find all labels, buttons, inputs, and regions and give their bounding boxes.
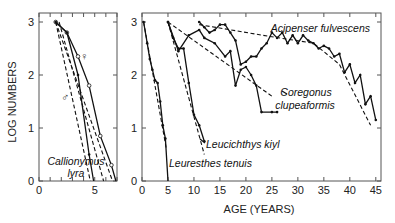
data-point <box>87 84 91 88</box>
y-tick-label: 1 <box>131 122 137 134</box>
y-tick-label: 2 <box>28 69 34 81</box>
data-point <box>276 111 279 114</box>
data-point <box>250 74 253 77</box>
data-point <box>354 82 357 85</box>
data-point <box>219 23 222 26</box>
plot-frame <box>142 13 381 181</box>
left-panel: 050123Callionymuslyra♀♂ <box>28 13 117 196</box>
data-point <box>66 31 69 34</box>
data-point <box>260 111 263 114</box>
series-line <box>168 22 277 112</box>
data-point <box>234 39 237 42</box>
annotation-callionymus: Callionymus <box>47 155 105 167</box>
y-tick-label: 0 <box>131 175 137 187</box>
data-point <box>110 163 114 167</box>
x-tick-label: 20 <box>240 184 252 196</box>
data-point <box>239 63 242 66</box>
x-tick-label: 0 <box>139 184 145 196</box>
data-point <box>156 82 159 85</box>
data-point <box>286 42 289 45</box>
y-tick-label: 2 <box>131 69 137 81</box>
data-point <box>148 58 151 61</box>
data-point <box>187 34 190 37</box>
data-point <box>375 119 378 122</box>
annotation-leucichthys: Leucichthys kiyl <box>206 138 280 150</box>
survivorship-chart: 050123Callionymuslyra♀♂ 0510152025303540… <box>0 0 395 223</box>
data-point <box>307 39 310 42</box>
data-point <box>198 29 201 32</box>
x-tick-label: 45 <box>370 184 382 196</box>
male-symbol-icon: ♂ <box>61 91 69 103</box>
data-point <box>239 68 242 71</box>
annotation-acipenser: Acipenser fulvescens <box>270 22 371 34</box>
data-point <box>198 21 201 24</box>
data-point <box>208 31 211 34</box>
data-point <box>265 42 268 45</box>
y-tick-label: 0 <box>28 175 34 187</box>
data-point <box>349 63 352 66</box>
data-point <box>338 53 341 56</box>
x-tick-label: 15 <box>214 184 226 196</box>
data-point <box>245 60 248 63</box>
data-point <box>213 42 216 45</box>
data-point <box>245 66 248 69</box>
x-tick-label: 40 <box>344 184 356 196</box>
data-point <box>369 95 372 98</box>
data-point <box>234 84 237 87</box>
x-tick-label: 5 <box>92 184 98 196</box>
annotation-coregonus: Coregonus <box>280 86 332 98</box>
x-tick-label: 35 <box>318 184 330 196</box>
data-point <box>333 55 336 58</box>
y-axis-label: LOG NUMBERS <box>6 61 18 142</box>
data-point <box>77 74 80 77</box>
data-point <box>229 50 232 53</box>
data-point <box>328 47 331 50</box>
x-tick-label: 30 <box>292 184 304 196</box>
annotation-leuresthes: Leuresthes tenuis <box>169 157 253 169</box>
y-tick-label: 1 <box>28 122 34 134</box>
right-panel: 0510152025303540450123Acipenser fulvesce… <box>131 13 382 196</box>
data-point <box>177 50 180 53</box>
x-tick-label: 5 <box>165 184 171 196</box>
data-point <box>159 100 162 103</box>
data-point <box>291 34 294 37</box>
data-point <box>302 34 305 37</box>
data-point <box>250 55 253 58</box>
data-point <box>364 103 367 106</box>
data-point <box>213 29 216 32</box>
data-point <box>224 55 227 58</box>
data-point <box>203 37 206 40</box>
annotation-clupeaformis: clupeaformis <box>275 99 335 111</box>
data-point <box>193 113 196 116</box>
data-point <box>323 45 326 48</box>
series-line <box>168 22 204 155</box>
data-point <box>255 55 258 58</box>
data-point <box>198 124 201 127</box>
x-tick-label: 10 <box>188 184 200 196</box>
data-point <box>182 47 185 50</box>
data-point <box>98 134 102 138</box>
data-point <box>187 82 190 85</box>
data-point <box>203 26 206 29</box>
series-line <box>144 22 168 181</box>
x-tick-label: 25 <box>266 184 278 196</box>
female-symbol-icon: ♀ <box>80 50 88 62</box>
x-axis-label: AGE (YEARS) <box>224 203 295 215</box>
x-tick-label: 0 <box>36 184 42 196</box>
data-point <box>297 42 300 45</box>
annotation-lyra: lyra <box>68 167 85 179</box>
data-point <box>229 31 232 34</box>
data-point <box>271 111 274 114</box>
data-point <box>260 47 263 50</box>
y-tick-label: 3 <box>28 16 34 28</box>
data-point <box>359 74 362 77</box>
y-tick-label: 3 <box>131 16 137 28</box>
data-point <box>224 23 227 26</box>
